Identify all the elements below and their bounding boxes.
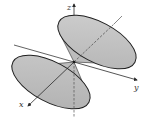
x-axis-label: x (19, 100, 24, 109)
z-axis-label: z (66, 3, 72, 12)
double-cone-figure: z x y (0, 0, 150, 124)
y-axis-label: y (133, 83, 139, 92)
origin-apex (73, 61, 76, 64)
x-axis-back (114, 16, 122, 24)
double-cone-diagram: z x y (0, 0, 150, 124)
